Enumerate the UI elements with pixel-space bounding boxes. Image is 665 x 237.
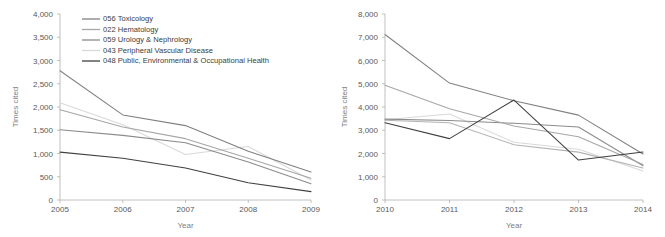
figure-root: 0 500 1,000 1,500 2,000 2,500 3,000 3,50… xyxy=(0,0,665,237)
legend-label-059-urology-nephrology: 059 Urology & Nephrology xyxy=(103,35,192,44)
left-ytick-1500: 1,500 xyxy=(33,126,54,135)
left-x-axis-title: Year xyxy=(177,221,194,230)
right-ytick-0: 0 xyxy=(374,196,379,205)
left-ytick-2000: 2,000 xyxy=(33,103,54,112)
right-chart-svg: 0 1,000 2,000 3,000 4,000 5,000 6,000 7,… xyxy=(333,0,665,237)
left-xtick-2008: 2008 xyxy=(239,205,257,214)
left-ytick-4000: 4,000 xyxy=(33,10,54,19)
right-x-tick-marks xyxy=(385,200,643,203)
left-series-059-urology-nephrology xyxy=(60,130,311,184)
right-series-secondary-trend xyxy=(385,120,643,168)
right-ytick-7000: 7,000 xyxy=(358,33,379,42)
legend: 056 Toxicology 022 Hematology 059 Urolog… xyxy=(82,14,269,65)
right-ytick-2000: 2,000 xyxy=(358,150,379,159)
left-chart-svg: 0 500 1,000 1,500 2,000 2,500 3,000 3,50… xyxy=(0,0,333,237)
right-ytick-4000: 4,000 xyxy=(358,103,379,112)
left-y-tick-marks xyxy=(57,14,60,200)
right-xtick-2012: 2012 xyxy=(505,205,523,214)
right-series-022-hematology xyxy=(385,85,643,164)
left-xtick-2006: 2006 xyxy=(114,205,132,214)
left-series-group xyxy=(60,71,311,192)
left-series-048-public-environmental-occupational-health xyxy=(60,152,311,192)
legend-label-022-hematology: 022 Hematology xyxy=(103,25,159,34)
right-ytick-6000: 6,000 xyxy=(358,57,379,66)
chart-panel-right: 0 1,000 2,000 3,000 4,000 5,000 6,000 7,… xyxy=(333,0,665,237)
left-y-axis-title: Times cited xyxy=(11,87,20,128)
left-ytick-3000: 3,000 xyxy=(33,57,54,66)
left-xtick-2007: 2007 xyxy=(177,205,195,214)
left-xtick-2009: 2009 xyxy=(302,205,320,214)
left-series-056-toxicology xyxy=(60,71,311,172)
left-xtick-2005: 2005 xyxy=(51,205,69,214)
left-ytick-3500: 3,500 xyxy=(33,33,54,42)
right-xtick-2011: 2011 xyxy=(441,205,459,214)
left-x-tick-marks xyxy=(60,200,311,203)
right-ytick-5000: 5,000 xyxy=(358,80,379,89)
legend-label-048-public-environmental-occupational-health: 048 Public, Environmental & Occupational… xyxy=(103,56,269,65)
right-xtick-2013: 2013 xyxy=(570,205,588,214)
right-series-group xyxy=(385,34,643,170)
left-ytick-500: 500 xyxy=(40,173,54,182)
left-ytick-0: 0 xyxy=(49,196,54,205)
right-x-axis-title: Year xyxy=(506,221,523,230)
right-xtick-2010: 2010 xyxy=(376,205,394,214)
right-xtick-2014: 2014 xyxy=(634,205,652,214)
right-series-048-public-environmental-occupational-health xyxy=(385,100,643,160)
legend-label-056-toxicology: 056 Toxicology xyxy=(103,14,153,23)
right-ytick-3000: 3,000 xyxy=(358,126,379,135)
right-y-tick-marks xyxy=(382,14,385,200)
legend-label-043-peripheral-vascular-disease: 043 Peripheral Vascular Disease xyxy=(103,46,213,55)
left-ytick-2500: 2,500 xyxy=(33,80,54,89)
right-series-056-toxicology xyxy=(385,34,643,154)
right-ytick-8000: 8,000 xyxy=(358,10,379,19)
right-ytick-1000: 1,000 xyxy=(358,173,379,182)
right-y-axis-title: Times cited xyxy=(340,87,349,128)
chart-panel-left: 0 500 1,000 1,500 2,000 2,500 3,000 3,50… xyxy=(0,0,333,237)
left-ytick-1000: 1,000 xyxy=(33,150,54,159)
